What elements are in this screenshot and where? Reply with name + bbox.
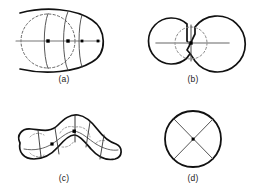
panel-b: (b) (129, 0, 257, 97)
axis-node (66, 39, 69, 42)
axis-node (192, 138, 195, 141)
axis-node (189, 41, 192, 44)
axis-node (97, 40, 100, 43)
axis-node (50, 142, 53, 145)
panel-d: (d) (129, 97, 257, 194)
panel-a: (a) (0, 0, 128, 97)
shape-outline (19, 115, 121, 160)
panel-c: (c) (0, 97, 128, 194)
panel-label-b: (b) (129, 74, 257, 84)
axis-node (73, 130, 76, 133)
panel-label-d: (d) (129, 173, 257, 183)
figure-root: (a) (b) (0, 0, 257, 194)
axis-node (46, 39, 49, 42)
axis-node (81, 40, 84, 43)
shape-outline-left-lobe (149, 18, 195, 64)
panel-label-c: (c) (0, 173, 128, 183)
panel-label-a: (a) (0, 74, 128, 84)
shape-outline-right-lobe (187, 16, 245, 72)
